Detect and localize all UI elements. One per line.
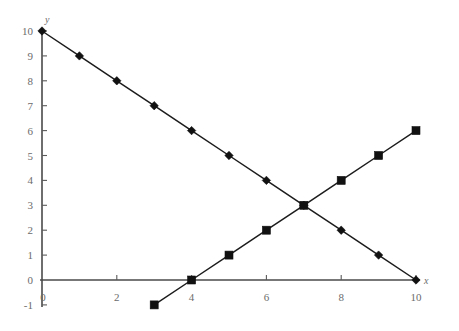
data-point-marker	[150, 301, 158, 309]
x-tick-label: 2	[114, 291, 120, 303]
y-tick-label: 4	[28, 174, 34, 186]
data-point-marker	[188, 276, 196, 284]
data-point-marker	[262, 226, 270, 234]
x-axis-label: x	[423, 275, 429, 286]
y-tick-label: -1	[24, 299, 33, 311]
y-tick-label: 1	[28, 249, 34, 261]
y-tick-label: 8	[28, 75, 34, 87]
y-tick-label: 5	[28, 150, 34, 162]
x-tick-label: 4	[189, 291, 195, 303]
y-tick-label: 3	[28, 199, 34, 211]
y-tick-label: 6	[28, 125, 34, 137]
y-tick-label: 10	[22, 25, 34, 37]
x-tick-label: 6	[264, 291, 270, 303]
x-tick-label: 8	[338, 291, 344, 303]
chart-canvas: -1012345678910 0246810 yx	[0, 0, 459, 331]
data-point-marker	[375, 152, 383, 160]
data-point-marker	[300, 201, 308, 209]
y-tick-label: 9	[28, 50, 34, 62]
data-point-marker	[412, 127, 420, 135]
line-chart: -1012345678910 0246810 yx	[0, 0, 459, 331]
y-tick-label: 2	[28, 224, 34, 236]
y-axis-label: y	[44, 14, 50, 25]
data-point-marker	[225, 251, 233, 259]
x-tick-label: 10	[411, 291, 423, 303]
y-tick-label: 7	[28, 100, 34, 112]
x-tick-label: 0	[40, 291, 46, 303]
y-tick-label: 0	[28, 274, 34, 286]
data-point-marker	[337, 176, 345, 184]
